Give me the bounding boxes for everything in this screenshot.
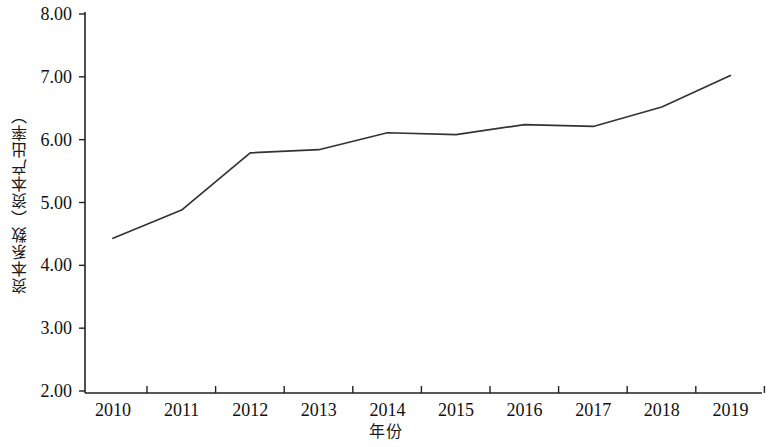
x-axis-tick-label: 2010 [95,401,131,419]
x-axis-tick-label: 2018 [644,401,680,419]
x-axis-tick-label: 2015 [438,401,474,419]
x-axis-tick-label: 2019 [712,401,748,419]
x-axis-tick-label: 2017 [575,401,611,419]
x-axis-tick-label: 2012 [232,401,268,419]
x-axis-tick-label: 2011 [164,401,199,419]
x-axis-title: 年份 [0,418,771,442]
x-axis-tick-label: 2013 [301,401,337,419]
line-chart-figure: 资本系数（资本产出率） 8.007.006.005.004.003.002.00… [0,0,771,447]
x-axis-tick-labels: 2010201120122013201420152016201720182019 [0,0,771,447]
x-axis-tick-label: 2016 [507,401,543,419]
x-axis-tick-label: 2014 [369,401,405,419]
